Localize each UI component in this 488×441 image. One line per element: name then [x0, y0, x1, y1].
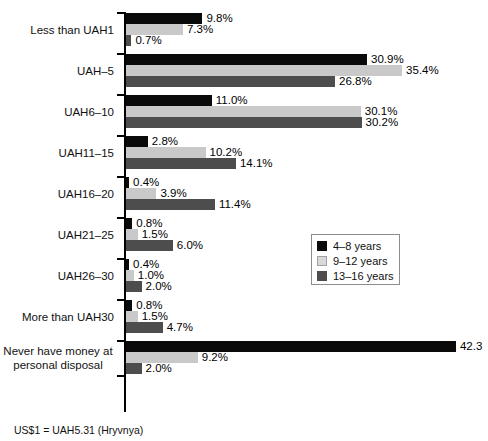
legend-label: 4–8 years [333, 240, 381, 252]
bar [126, 136, 148, 147]
bar [126, 76, 335, 87]
bar-value-label: 0.7% [135, 33, 161, 47]
bar [126, 158, 236, 169]
bar-group: Less than UAH19.8%7.3%0.7% [0, 13, 488, 46]
bar-value-label: 1.5% [142, 227, 168, 241]
bar-row: 42.3 [126, 341, 488, 352]
bar-group: UAH–530.9%35.4%26.8% [0, 54, 488, 87]
bar [126, 240, 173, 251]
bar-value-label: 2.0% [146, 361, 172, 375]
category-label: UAH–5 [0, 64, 114, 78]
bar-value-label: 14.1% [240, 156, 273, 170]
bar-value-label: 30.9% [371, 52, 404, 66]
category-label: UAH21–25 [0, 228, 114, 242]
bar-group: UAH16–200.4%3.9%11.4% [0, 177, 488, 210]
legend-swatch-icon [317, 256, 327, 266]
bar-row: 0.7% [126, 35, 488, 46]
category-label: UAH6–10 [0, 105, 114, 119]
bar [126, 35, 131, 46]
bar-row: 1.0% [126, 270, 488, 281]
bar-row: 35.4% [126, 65, 488, 76]
category-label: Less than UAH1 [0, 23, 114, 37]
bar-row: 11.0% [126, 95, 488, 106]
bar-row: 0.8% [126, 218, 488, 229]
legend-item-13-16-years: 13–16 years [317, 269, 394, 283]
bar-value-label: 11.4% [219, 197, 251, 211]
bar-value-label: 35.4% [406, 63, 439, 77]
bar-row: 4.7% [126, 322, 488, 333]
chart-footnote: US$1 = UAH5.31 (Hryvnya) [14, 424, 143, 437]
bar-row: 0.8% [126, 300, 488, 311]
bar-value-label: 11.0% [216, 93, 248, 107]
bar [126, 54, 367, 65]
bar-row: 2.0% [126, 281, 488, 292]
bar [126, 199, 215, 210]
bar-group: UAH6–1011.0%30.1%30.2% [0, 95, 488, 128]
bar [126, 363, 142, 374]
bar [126, 270, 134, 281]
bar-group: More than UAH300.8%1.5%4.7% [0, 300, 488, 333]
bar-value-label: 1.5% [142, 309, 168, 323]
bar [126, 117, 362, 128]
bar-row: 0.4% [126, 259, 488, 270]
legend-label: 9–12 years [333, 255, 387, 267]
bar [126, 300, 132, 311]
bar [126, 229, 138, 240]
bar-value-label: 42.3 [460, 339, 482, 353]
bar [126, 188, 156, 199]
bar-row: 26.8% [126, 76, 488, 87]
bar-row: 11.4% [126, 199, 488, 210]
bar-group: UAH21–250.8%1.5%6.0% [0, 218, 488, 251]
bar-row: 30.1% [126, 106, 488, 117]
bar [126, 218, 132, 229]
category-label: More than UAH30 [0, 310, 114, 324]
category-label: UAH26–30 [0, 269, 114, 283]
category-label: Never have money at personal disposal [2, 344, 114, 372]
bar-value-label: 10.2% [210, 145, 243, 159]
bar-value-label: 4.7% [167, 320, 193, 334]
category-label: UAH16–20 [0, 187, 114, 201]
bar-row: 7.3% [126, 24, 488, 35]
bar [126, 281, 142, 292]
bar-row: 3.9% [126, 188, 488, 199]
legend-label: 13–16 years [333, 270, 394, 282]
plot-area: Less than UAH19.8%7.3%0.7%UAH–530.9%35.4… [0, 0, 488, 412]
bar [126, 259, 129, 270]
bar-group: UAH26–300.4%1.0%2.0% [0, 259, 488, 292]
bar [126, 322, 163, 333]
chart-legend: 4–8 years 9–12 years 13–16 years [311, 234, 400, 285]
bar [126, 106, 361, 117]
category-label: UAH11–15 [0, 146, 114, 160]
bar-value-label: 26.8% [339, 74, 372, 88]
bar-row: 9.8% [126, 13, 488, 24]
bar [126, 95, 212, 106]
bar-value-label: 6.0% [177, 238, 203, 252]
axis-tick [117, 375, 124, 377]
bar-group: Never have money at personal disposal42.… [0, 341, 488, 374]
bar-value-label: 30.2% [366, 115, 399, 129]
bar-row: 2.0% [126, 363, 488, 374]
legend-item-4-8-years: 4–8 years [317, 239, 394, 253]
bar [126, 177, 129, 188]
bar-value-label: 3.9% [160, 186, 186, 200]
bar-value-label: 7.3% [187, 22, 213, 36]
bar [126, 311, 138, 322]
bar [126, 341, 456, 352]
bar-value-label: 0.4% [133, 175, 159, 189]
bar-chart: Less than UAH19.8%7.3%0.7%UAH–530.9%35.4… [0, 0, 488, 441]
bar-value-label: 9.2% [202, 350, 228, 364]
bar-value-label: 2.0% [146, 279, 172, 293]
bar [126, 147, 206, 158]
bar-row: 14.1% [126, 158, 488, 169]
bar-row: 2.8% [126, 136, 488, 147]
bar-row: 10.2% [126, 147, 488, 158]
legend-swatch-icon [317, 271, 327, 281]
legend-swatch-icon [317, 241, 327, 251]
bar-value-label: 2.8% [152, 134, 178, 148]
bar-row: 6.0% [126, 240, 488, 251]
legend-item-9-12-years: 9–12 years [317, 254, 394, 268]
bar-row: 9.2% [126, 352, 488, 363]
bar-group: UAH11–152.8%10.2%14.1% [0, 136, 488, 169]
bar-row: 30.2% [126, 117, 488, 128]
